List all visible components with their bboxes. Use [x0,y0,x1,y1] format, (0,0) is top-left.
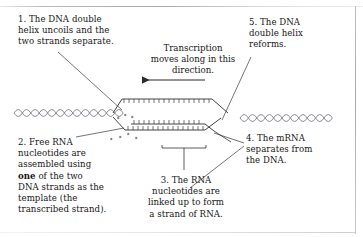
transcription-direction-label: Transcription moves along in this direct… [137,43,249,77]
mrna-bracket [162,145,206,170]
left-dna-helix [14,110,123,117]
caption-step-1: 1. The DNA double helix uncoils and the … [18,14,136,48]
caption-step-2-emphasis: one [18,171,36,181]
caption-step-2: 2. Free RNA nucleotides are assembled us… [18,137,136,215]
upper-strand-bases [124,99,209,103]
released-mrna-tail [214,131,231,142]
caption-step-2-part-a: 2. Free RNA nucleotides are assembled us… [18,137,91,169]
mrna-bases [134,120,199,124]
diagram-canvas: 1. The DNA double helix uncoils and the … [0,0,363,237]
right-dna-helix [240,115,332,122]
caption-step-4: 4. The mRNA separates from the DNA. [246,133,336,167]
caption-step-3: 3. The RNA nucleotides are linked up to … [140,175,232,220]
template-strand-bases [128,126,203,130]
template-bubble-strands [113,99,228,130]
caption-step-5: 5. The DNA double helix reforms. [249,17,335,51]
